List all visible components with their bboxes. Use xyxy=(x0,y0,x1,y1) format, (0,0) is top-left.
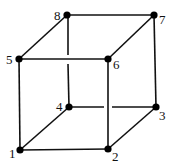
vertex-8 xyxy=(63,11,70,18)
edge-1-5 xyxy=(19,59,20,150)
vertex-label-4: 4 xyxy=(56,99,63,114)
edge-2-3 xyxy=(108,107,156,149)
vertex-label-1: 1 xyxy=(9,146,16,161)
vertex-5 xyxy=(15,55,22,62)
vertex-label-2: 2 xyxy=(112,149,119,164)
vertex-label-5: 5 xyxy=(6,52,13,67)
cube-diagram: 1 2 3 4 5 6 7 8 xyxy=(0,0,174,166)
vertex-6 xyxy=(104,55,111,62)
vertex-label-8: 8 xyxy=(54,8,61,23)
edge-1-2 xyxy=(20,149,108,150)
vertex-label-7: 7 xyxy=(159,12,166,27)
edge-3-7 xyxy=(154,15,156,107)
vertex-1 xyxy=(16,146,23,153)
vertex-label-3: 3 xyxy=(159,108,166,123)
vertex-4 xyxy=(65,103,72,110)
edge-8-4-b xyxy=(68,64,69,107)
cube-vertices xyxy=(15,11,159,153)
vertex-label-6: 6 xyxy=(113,57,120,72)
edge-6-7 xyxy=(108,15,154,59)
vertex-2 xyxy=(104,145,111,152)
cube-edges xyxy=(19,15,156,150)
vertex-7 xyxy=(150,11,157,18)
